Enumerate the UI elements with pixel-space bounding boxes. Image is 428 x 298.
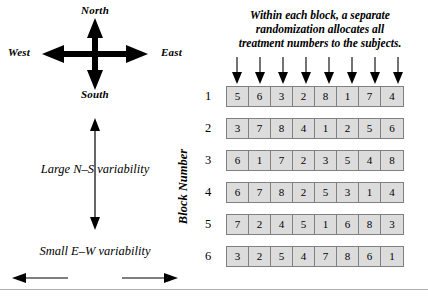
treatment-cell: 2 xyxy=(249,247,271,266)
treatment-cell: 2 xyxy=(293,151,315,170)
allocation-arrows xyxy=(226,57,416,85)
block-row: 361723548 xyxy=(198,150,418,171)
block-cells: 61723548 xyxy=(226,150,404,171)
treatment-cell: 3 xyxy=(337,183,359,202)
compass-rose: North South West East xyxy=(0,4,190,100)
block-cells: 72451683 xyxy=(226,214,404,235)
horizontal-double-arrow-icon xyxy=(0,266,190,290)
compass-label-north: North xyxy=(0,4,190,16)
treatment-cell: 7 xyxy=(315,247,337,266)
compass-label-east: East xyxy=(161,46,182,58)
treatment-cell: 1 xyxy=(315,215,337,234)
north-south-variability-label: Large N–S variability xyxy=(0,162,190,177)
treatment-cell: 6 xyxy=(337,215,359,234)
treatment-cell: 6 xyxy=(227,151,249,170)
treatment-cell: 4 xyxy=(293,119,315,138)
treatment-cell: 5 xyxy=(271,247,293,266)
treatment-cell: 1 xyxy=(381,247,403,266)
block-row-label: 5 xyxy=(198,217,218,232)
north-south-variability-annotation: Large N–S variability xyxy=(0,118,190,230)
treatment-cell: 6 xyxy=(359,247,381,266)
treatment-cell: 2 xyxy=(293,87,315,106)
treatment-cell: 6 xyxy=(381,119,403,138)
block-row: 632547861 xyxy=(198,246,418,267)
treatment-cell: 4 xyxy=(381,87,403,106)
downward-arrows-icon xyxy=(226,57,416,85)
treatment-cell: 2 xyxy=(249,215,271,234)
treatment-cell: 8 xyxy=(337,247,359,266)
caption: Within each block, a separate randomizat… xyxy=(212,8,428,50)
treatment-cell: 4 xyxy=(381,183,403,202)
compass-label-west: West xyxy=(8,46,30,58)
caption-line-3: treatment numbers to the subjects. xyxy=(212,36,428,50)
treatment-cell: 7 xyxy=(249,183,271,202)
caption-line-1: Within each block, a separate xyxy=(212,8,428,22)
treatment-cell: 8 xyxy=(271,183,293,202)
block-cells: 67825314 xyxy=(226,182,404,203)
block-number-axis-title-text: Block Number xyxy=(177,148,192,223)
east-west-variability-annotation: Small E–W variability xyxy=(0,244,190,288)
block-row-label: 2 xyxy=(198,121,218,136)
treatment-cell: 2 xyxy=(293,183,315,202)
treatment-cell: 7 xyxy=(359,87,381,106)
block-grid: 1563281742378412563617235484678253145724… xyxy=(198,86,418,267)
block-row: 467825314 xyxy=(198,182,418,203)
compass-label-south: South xyxy=(0,88,190,100)
block-number-axis-title: Block Number xyxy=(172,96,196,276)
treatment-cell: 1 xyxy=(337,87,359,106)
treatment-cell: 4 xyxy=(271,215,293,234)
block-row-label: 4 xyxy=(198,185,218,200)
bottom-divider xyxy=(0,289,428,290)
treatment-cell: 6 xyxy=(249,87,271,106)
caption-line-2: randomization allocates all xyxy=(212,22,428,36)
treatment-cell: 5 xyxy=(359,119,381,138)
block-row: 156328174 xyxy=(198,86,418,107)
treatment-cell: 7 xyxy=(227,215,249,234)
treatment-cell: 8 xyxy=(271,119,293,138)
treatment-cell: 2 xyxy=(337,119,359,138)
treatment-cell: 4 xyxy=(293,247,315,266)
treatment-cell: 8 xyxy=(315,87,337,106)
block-cells: 56328174 xyxy=(226,86,404,107)
treatment-cell: 8 xyxy=(381,151,403,170)
treatment-cell: 3 xyxy=(381,215,403,234)
east-west-variability-label: Small E–W variability xyxy=(0,244,190,259)
treatment-cell: 1 xyxy=(249,151,271,170)
treatment-cell: 3 xyxy=(271,87,293,106)
treatment-cell: 6 xyxy=(227,183,249,202)
treatment-cell: 4 xyxy=(359,151,381,170)
treatment-cell: 3 xyxy=(315,151,337,170)
block-row-label: 3 xyxy=(198,153,218,168)
treatment-cell: 1 xyxy=(359,183,381,202)
treatment-cell: 3 xyxy=(227,119,249,138)
treatment-cell: 5 xyxy=(337,151,359,170)
treatment-cell: 1 xyxy=(315,119,337,138)
treatment-cell: 5 xyxy=(227,87,249,106)
block-row-label: 6 xyxy=(198,249,218,264)
block-row: 237841256 xyxy=(198,118,418,139)
treatment-cell: 8 xyxy=(359,215,381,234)
block-cells: 37841256 xyxy=(226,118,404,139)
treatment-cell: 3 xyxy=(227,247,249,266)
treatment-cell: 7 xyxy=(249,119,271,138)
treatment-cell: 7 xyxy=(271,151,293,170)
treatment-cell: 5 xyxy=(315,183,337,202)
block-row-label: 1 xyxy=(198,89,218,104)
randomized-block-design-figure: North South West East Large N–S variabil… xyxy=(0,0,428,298)
block-row: 572451683 xyxy=(198,214,418,235)
treatment-cell: 5 xyxy=(293,215,315,234)
block-cells: 32547861 xyxy=(226,246,404,267)
